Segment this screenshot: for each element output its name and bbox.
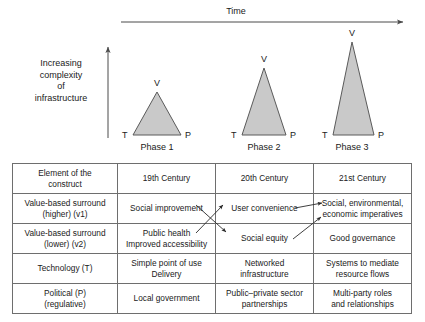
row-4-20th-line-2: partnerships: [218, 299, 311, 309]
header-cell-21st: 21st Century: [314, 164, 412, 194]
row-4-21st-line-1: Multi-party roles: [316, 288, 409, 298]
complexity-axis-label-line-2: complexity: [18, 70, 104, 82]
row-1-21st: Social, environmental, economic imperati…: [314, 194, 412, 224]
phase-1-right-label: P: [185, 130, 191, 140]
complexity-axis-label-line-4: infrastructure: [18, 93, 104, 105]
row-1-21st-line-2: economic imperatives: [316, 209, 409, 219]
row-1-19th-line-1: Social improvement: [120, 203, 213, 213]
row-4-20th-line-1: Public–private sector: [218, 288, 311, 298]
row-3-21st-line-2: resource flows: [316, 269, 409, 279]
row-2-element-line-2: (lower) (v2): [15, 239, 115, 249]
header-cell-20th: 20th Century: [216, 164, 314, 194]
row-3-20th-line-1: Networked: [218, 258, 311, 268]
row-2-20th: Social equity: [216, 224, 314, 254]
header-element-line-1: Element of the: [15, 168, 115, 178]
phase-3-left-label: T: [322, 130, 328, 140]
row-2-element: Value-based surround (lower) (v2): [13, 224, 118, 254]
table-row: Technology (T) Simple point of use Deliv…: [13, 254, 412, 284]
matrix: Element of the construct 19th Century 20…: [12, 163, 412, 314]
phase-2-apex-label: V: [261, 54, 267, 64]
complexity-axis-label: Increasing complexity of infrastructure: [18, 58, 104, 104]
row-2-19th: Public health Improved accessibility: [118, 224, 216, 254]
row-3-20th-line-2: infrastructure: [218, 269, 311, 279]
row-1-20th-line-1: User convenience: [218, 203, 311, 213]
evolution-diagram: Time Increasing complexity of infrastruc…: [0, 0, 425, 160]
header-cell-element: Element of the construct: [13, 164, 118, 194]
row-1-21st-line-1: Social, environmental,: [316, 198, 409, 208]
phase-2-right-label: P: [290, 130, 296, 140]
row-2-19th-line-1: Public health: [120, 228, 213, 238]
row-2-20th-line-1: Social equity: [218, 233, 311, 243]
phase-2-name: Phase 2: [247, 142, 280, 152]
phase-2-left-label: T: [231, 130, 237, 140]
row-1-element-line-1: Value-based surround: [15, 198, 115, 208]
phase-3-name: Phase 3: [335, 142, 368, 152]
row-3-19th-line-2: Delivery: [120, 269, 213, 279]
header-cell-19th: 19th Century: [118, 164, 216, 194]
table-row: Value-based surround (higher) (v1) Socia…: [13, 194, 412, 224]
table-row: Political (P) (regulative) Local governm…: [13, 284, 412, 314]
row-1-20th: User convenience: [216, 194, 314, 224]
row-2-19th-line-2: Improved accessibility: [120, 239, 213, 249]
row-4-element: Political (P) (regulative): [13, 284, 118, 314]
header-21st-line-1: 21st Century: [316, 173, 409, 183]
row-1-element-line-2: (higher) (v1): [15, 209, 115, 219]
row-3-20th: Networked infrastructure: [216, 254, 314, 284]
row-3-19th-line-1: Simple point of use: [120, 258, 213, 268]
header-19th-line-1: 19th Century: [120, 173, 213, 183]
row-4-19th: Local government: [118, 284, 216, 314]
row-3-element: Technology (T): [13, 254, 118, 284]
row-2-21st-line-1: Good governance: [316, 233, 409, 243]
phase-1-name: Phase 1: [140, 142, 173, 152]
row-4-element-line-1: Political (P): [15, 288, 115, 298]
row-2-element-line-1: Value-based surround: [15, 228, 115, 238]
phase-2-triangle: [242, 68, 286, 135]
phase-3-right-label: P: [378, 130, 384, 140]
row-3-19th: Simple point of use Delivery: [118, 254, 216, 284]
row-1-19th: Social improvement: [118, 194, 216, 224]
row-4-19th-line-1: Local government: [120, 293, 213, 303]
row-2-21st: Good governance: [314, 224, 412, 254]
complexity-axis-label-line-3: of: [18, 81, 104, 93]
row-3-21st: Systems to mediate resource flows: [314, 254, 412, 284]
header-20th-line-1: 20th Century: [218, 173, 311, 183]
row-4-20th: Public–private sector partnerships: [216, 284, 314, 314]
row-4-21st: Multi-party roles and relationships: [314, 284, 412, 314]
phase-1-triangle: [133, 92, 181, 135]
construct-matrix-table: Element of the construct 19th Century 20…: [12, 163, 411, 314]
row-3-element-line-1: Technology (T): [15, 263, 115, 273]
table-header-row: Element of the construct 19th Century 20…: [13, 164, 412, 194]
time-axis-label: Time: [226, 6, 246, 17]
phase-3-apex-label: V: [349, 28, 355, 38]
row-4-21st-line-2: and relationships: [316, 299, 409, 309]
row-3-21st-line-1: Systems to mediate: [316, 258, 409, 268]
phase-3-triangle: [333, 42, 374, 135]
phase-1-left-label: T: [122, 130, 128, 140]
row-1-element: Value-based surround (higher) (v1): [13, 194, 118, 224]
figure-root: Time Increasing complexity of infrastruc…: [0, 0, 425, 322]
phase-1-apex-label: V: [154, 78, 160, 88]
row-4-element-line-2: (regulative): [15, 299, 115, 309]
header-element-line-2: construct: [15, 179, 115, 189]
table-row: Value-based surround (lower) (v2) Public…: [13, 224, 412, 254]
complexity-axis-label-line-1: Increasing: [18, 58, 104, 70]
